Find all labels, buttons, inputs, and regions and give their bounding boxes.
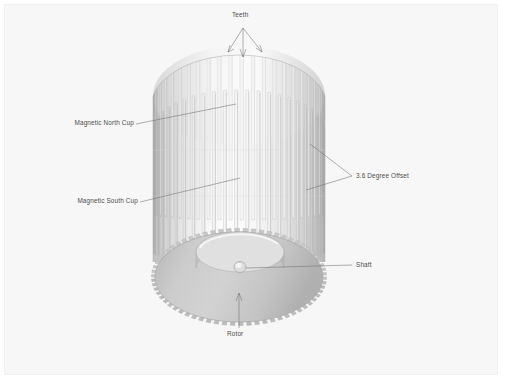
south-tooth [324, 123, 325, 253]
label-rotor: Rotor [227, 330, 243, 338]
label-offset: 3.6 Degree Offset [356, 172, 409, 180]
rotor-serration [323, 277, 327, 280]
label-shaft: Shaft [356, 261, 372, 269]
label-magnetic-south-cup: Magnetic South Cup [0, 197, 138, 205]
rotor-serration [230, 322, 235, 326]
rotor-serration [151, 274, 155, 277]
label-teeth: Teeth [232, 11, 248, 19]
south-tooth [321, 118, 322, 255]
top-cap [153, 46, 325, 146]
shaft-knob-highlight [236, 263, 242, 268]
label-magnetic-north-cup: Magnetic North Cup [0, 119, 134, 127]
rotor-serration [243, 228, 248, 232]
north-tooth [156, 81, 157, 215]
rotor-serration [235, 228, 240, 232]
south-tooth [155, 121, 156, 254]
rotor-illustration [0, 0, 506, 383]
figure-stage: Teeth Magnetic North Cup Magnetic South … [0, 0, 506, 383]
